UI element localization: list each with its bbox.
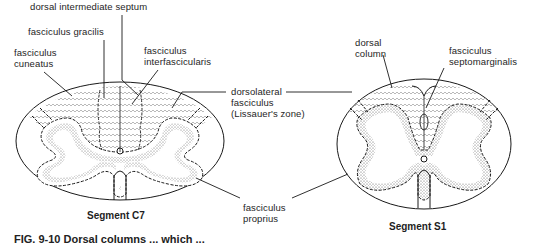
- label-line: fasciculus: [449, 45, 517, 56]
- label-line: fasciculus: [243, 202, 286, 213]
- label-fasciculus-cuneatus: fasciculus cuneatus: [14, 47, 57, 69]
- label-dorsal-column: dorsal column: [355, 37, 386, 59]
- label-line: dorsal: [355, 37, 386, 48]
- segment-s1-title: Segment S1: [389, 221, 446, 232]
- leader-fasciculus-proprius-left: [196, 178, 240, 198]
- label-dorsolateral-fasciculus: dorsolateral fasciculus (Lissauer's zone…: [231, 86, 305, 119]
- segment-c7-title: Segment C7: [87, 210, 145, 221]
- label-line: septomarginalis: [449, 56, 517, 67]
- label-line: column: [355, 48, 386, 59]
- segment-s1-section: [337, 79, 511, 209]
- label-line: cuneatus: [14, 58, 57, 69]
- label-dorsal-intermediate-septum: dorsal intermediate septum: [30, 1, 147, 12]
- label-fasciculus-proprius: fasciculus proprius: [243, 202, 286, 224]
- label-line: (Lissauer's zone): [231, 108, 305, 119]
- label-line: fasciculus: [144, 45, 211, 56]
- label-line: fasciculus: [14, 47, 57, 58]
- label-line: interfascicularis: [144, 56, 211, 67]
- figure-caption: FIG. 9-10 Dorsal columns ... which ...: [14, 233, 205, 245]
- label-fasciculus-septomarginalis: fasciculus septomarginalis: [449, 45, 517, 67]
- label-fasciculus-gracilis: fasciculus gracilis: [28, 26, 104, 37]
- leader-fasciculus-proprius-right: [292, 174, 348, 198]
- s1-central-canal: [421, 156, 427, 162]
- label-line: dorsolateral: [231, 86, 305, 97]
- leader-fasciculus-cuneatus: [44, 72, 72, 96]
- label-line: proprius: [243, 213, 286, 224]
- leader-dorsal-column: [383, 55, 392, 88]
- label-line: fasciculus: [231, 97, 305, 108]
- label-fasciculus-interfascicularis: fasciculus interfascicularis: [144, 45, 211, 67]
- segment-c7-section: [16, 82, 224, 200]
